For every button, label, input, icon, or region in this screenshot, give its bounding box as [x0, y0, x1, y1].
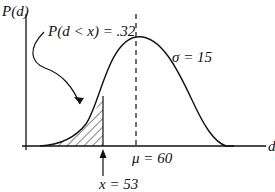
y-axis-label: P(d) [1, 3, 29, 20]
probability-label: P(d < x) = .32 [47, 23, 136, 40]
normal-distribution-diagram: P(d) P(d < x) = .32 σ = 15 μ = 60 x = 53… [0, 0, 275, 192]
callout-arrow [33, 32, 80, 104]
x-axis-label: d [268, 138, 275, 154]
sigma-label: σ = 15 [172, 49, 213, 65]
mu-label: μ = 60 [131, 150, 173, 166]
x-value-label: x = 53 [98, 176, 138, 192]
shaded-tail-region [40, 96, 103, 146]
x-marker-arrowhead-icon [100, 149, 107, 158]
